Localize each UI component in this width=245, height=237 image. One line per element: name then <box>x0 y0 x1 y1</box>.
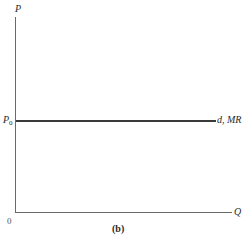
y-axis-label: P <box>15 4 21 14</box>
demand-mr-line <box>16 120 216 122</box>
p0-subscript: 0 <box>9 119 13 127</box>
demand-mr-chart: P P0 Q 0 d, MR (b) <box>0 0 245 237</box>
figure-caption: (b) <box>112 224 124 234</box>
price-axis <box>15 17 16 213</box>
p0-tick-label: P0 <box>3 115 13 127</box>
curve-label-text: d, MR <box>217 114 241 125</box>
curve-label: d, MR <box>217 115 241 125</box>
quantity-axis <box>15 212 232 213</box>
x-axis-label: Q <box>234 207 241 217</box>
origin-label: 0 <box>7 217 12 226</box>
